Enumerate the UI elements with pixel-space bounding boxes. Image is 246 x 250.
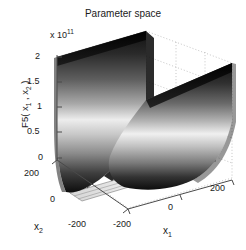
z-label-part1: F5( x: [19, 106, 30, 128]
z-exponent-power: 11: [67, 28, 74, 35]
z-label-part3: ): [19, 81, 30, 87]
x1-tick-200: 200: [210, 184, 225, 193]
z-exponent-base: x 10: [50, 30, 67, 40]
x2-tick-200: 200: [24, 169, 39, 178]
x1-tick-0: 0: [168, 203, 173, 212]
z-tick-0: 0: [38, 153, 43, 162]
z-tick-2: 2: [35, 52, 40, 61]
figure-canvas: Parameter space x 1011 2 1.5 1 0.5 0 F5(…: [0, 0, 246, 250]
chart-title: Parameter space: [0, 9, 246, 19]
x1-label-sub: 1: [168, 231, 172, 238]
x1-tick-neg200: -200: [113, 220, 131, 229]
x2-tick-neg200: -200: [68, 220, 86, 229]
x2-label-sub: 2: [39, 227, 43, 234]
z-label-sub1: 1: [25, 103, 32, 107]
x2-tick-0: 0: [50, 195, 55, 204]
z-axis-exponent: x 1011: [50, 29, 74, 40]
z-label-part2: , x: [19, 90, 30, 103]
z-axis-label: F5( x1 , x2 ): [20, 56, 32, 152]
z-label-sub2: 2: [25, 86, 32, 90]
x2-axis-label: x2: [34, 222, 43, 234]
surface-plot-graphic: [0, 0, 246, 250]
z-tick-1: 1: [37, 102, 42, 111]
x1-axis-label: x1: [163, 226, 172, 238]
